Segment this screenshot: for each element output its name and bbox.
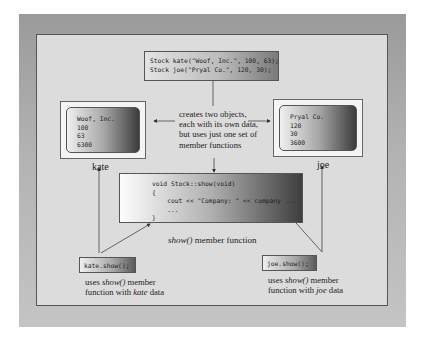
joe-call-caption: uses show() member function with joe dat…: [268, 275, 343, 295]
cap-text: function with: [85, 287, 133, 297]
data-field: 63: [77, 132, 139, 141]
member-function-code: void Stock::show(void){ cout << "Company…: [119, 173, 303, 223]
cap-fn: show(): [285, 275, 308, 285]
kate-call-caption: uses show() member function with kate da…: [85, 277, 164, 297]
joe-show-call: joe.show();: [262, 255, 317, 271]
object-kate-data: Woof, Inc.100636300: [66, 107, 140, 153]
kate-show-call: kate.show();: [79, 257, 136, 273]
center-note: creates two objects, each with its own d…: [179, 109, 259, 150]
cap-text: data: [327, 285, 343, 295]
declaration-line-kate: Stock kate("Woof, Inc.", 100, 63);: [150, 57, 278, 66]
cap-text: uses: [85, 277, 102, 287]
cap-text: data: [148, 287, 164, 297]
object-joe-label: joe: [317, 159, 329, 170]
caption-fn: show(): [168, 235, 193, 245]
caption-rest: member function: [193, 235, 257, 245]
object-kate-frame: Woof, Inc.100636300: [60, 101, 146, 159]
cap-fn: show(): [102, 277, 125, 287]
code-line: {: [152, 189, 302, 198]
code-line: }: [152, 214, 302, 223]
code-line: cout << "Company: " << company ...: [152, 197, 302, 206]
data-field: 3600: [290, 139, 356, 148]
object-declaration-code: Stock kate("Woof, Inc.", 100, 63);Stock …: [144, 51, 279, 81]
code-line: void Stock::show(void): [152, 180, 302, 189]
declaration-line-joe: Stock joe("Pryal Co.", 120, 30);: [150, 66, 278, 75]
data-field: 120: [290, 122, 356, 131]
data-field: Woof, Inc.: [77, 115, 139, 124]
cap-text: member: [308, 275, 338, 285]
cap-obj: joe: [316, 285, 327, 295]
object-kate-label: kate: [92, 161, 109, 172]
cap-text: function with: [268, 285, 316, 295]
data-field: 30: [290, 130, 356, 139]
cap-obj: kate: [133, 287, 147, 297]
code-line: ...: [152, 206, 302, 215]
data-field: Pryal Co.: [290, 113, 356, 122]
object-joe-data: Pryal Co.120303600: [279, 105, 357, 151]
cap-text: uses: [268, 275, 285, 285]
data-field: 6300: [77, 141, 139, 150]
member-function-caption: show() member function: [168, 235, 256, 245]
data-field: 100: [77, 124, 139, 133]
cap-text: member: [125, 277, 155, 287]
object-joe-frame: Pryal Co.120303600: [273, 99, 363, 157]
